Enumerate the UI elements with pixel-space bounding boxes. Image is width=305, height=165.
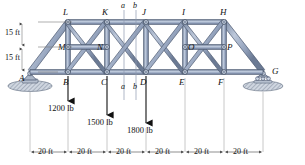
load-label-D: 1800 lb [127,126,153,135]
joint-label-N: N [97,43,103,52]
horizontal-dim-2: 20 ft [77,148,92,156]
vertical-dim-upper: 15 ft [5,29,20,37]
joint-label-C: C [101,78,107,87]
vertical-dim-lower: 15 ft [5,54,20,62]
horizontal-dim-6: 20 ft [233,148,248,156]
joint-label-L: L [63,8,68,17]
joint-label-M: M [58,43,66,52]
truss-figure: L K J I H M N O P A B C D E F G a b a b … [0,0,305,165]
section-label-b-top: b [133,2,137,10]
joint-label-G: G [272,67,279,76]
joint-label-P: P [227,43,233,52]
load-label-C: 1500 lb [87,118,113,127]
horizontal-dim-1: 20 ft [38,148,53,156]
horizontal-dim-3: 20 ft [116,148,131,156]
section-label-a-top: a [121,2,125,10]
truss-diagram [0,0,305,165]
horizontal-dim-4: 20 ft [155,148,170,156]
joint-label-B: B [63,78,69,87]
joint-label-I: I [182,8,185,17]
joint-label-K: K [102,8,108,17]
section-label-a-bottom: a [121,83,125,91]
joint-label-J: J [142,8,146,17]
joint-label-D: D [140,78,147,87]
joint-label-E: E [179,78,185,87]
joint-label-F: F [218,78,224,87]
section-label-b-bottom: b [133,83,137,91]
joint-label-A: A [19,74,25,83]
joint-label-H: H [220,8,227,17]
horizontal-dim-5: 20 ft [194,148,209,156]
joint-label-O: O [188,43,195,52]
load-label-B: 1200 lb [48,104,74,113]
